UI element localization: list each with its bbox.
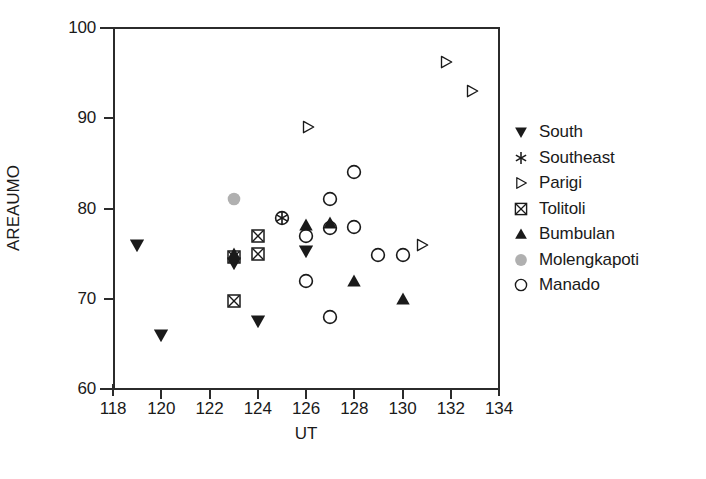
y-tick-80: [104, 208, 113, 210]
asterisk-icon: [512, 150, 530, 166]
data-point-parigi-0: [301, 120, 316, 135]
legend-item-molengkapoti: Molengkapoti: [512, 252, 639, 268]
x-tick-118: [112, 384, 114, 396]
x-tick-label-126: 126: [292, 399, 320, 419]
x-tick-label-130: 130: [389, 399, 417, 419]
y-tick-label-80: 80: [77, 199, 96, 219]
x-tick-label-128: 128: [340, 399, 368, 419]
data-point-parigi-1: [414, 237, 429, 252]
x-tick-label-124: 124: [244, 399, 272, 419]
x-tick-132: [450, 390, 452, 399]
legend: SouthSoutheastParigiTolitoliBumbulanMole…: [512, 124, 639, 293]
crossed-square-icon: [512, 201, 530, 217]
open-circle-icon: [512, 277, 530, 293]
data-point-south-4: [298, 242, 315, 259]
filled-down-triangle-icon: [512, 124, 530, 140]
data-point-manado-4: [322, 220, 338, 236]
legend-label: Molengkapoti: [539, 250, 639, 270]
x-tick-124: [257, 390, 259, 399]
legend-item-tolitoli: Tolitoli: [512, 201, 639, 217]
x-tick-126: [305, 390, 307, 399]
y-tick-60: [100, 388, 114, 390]
y-tick-label-70: 70: [77, 289, 96, 309]
data-point-tolitoli-3: [250, 246, 265, 261]
x-tick-130: [402, 390, 404, 399]
data-point-bumbulan-4: [395, 291, 411, 307]
y-tick-label-60: 60: [77, 379, 96, 399]
legend-item-manado: Manado: [512, 277, 639, 293]
legend-label: Bumbulan: [539, 224, 615, 244]
x-tick-label-132: 132: [437, 399, 465, 419]
legend-label: South: [539, 122, 583, 142]
data-point-manado-5: [322, 309, 338, 325]
data-point-manado-0: [274, 210, 290, 226]
x-axis-label: UT: [295, 424, 318, 444]
x-tick-label-118: 118: [100, 399, 127, 419]
x-tick-134: [498, 384, 500, 396]
data-point-manado-3: [322, 191, 338, 207]
data-point-manado-1: [298, 228, 314, 244]
y-tick-label-100: 100: [68, 18, 96, 38]
legend-item-southeast: Southeast: [512, 150, 639, 166]
x-tick-label-120: 120: [147, 399, 175, 419]
legend-label: Parigi: [539, 173, 582, 193]
axis-spine-top: [113, 27, 500, 29]
data-point-manado-8: [370, 247, 386, 263]
filled-up-triangle-icon: [512, 226, 530, 242]
data-point-south-3: [249, 313, 266, 330]
x-tick-128: [353, 390, 355, 399]
data-point-south-1: [153, 326, 170, 343]
axis-spine-right: [498, 27, 500, 390]
data-point-manado-9: [395, 247, 411, 263]
legend-label: Southeast: [539, 148, 615, 168]
y-tick-100: [100, 27, 114, 29]
x-tick-label-122: 122: [196, 399, 224, 419]
data-point-manado-2: [298, 273, 314, 289]
legend-label: Tolitoli: [539, 199, 585, 219]
y-tick-90: [104, 117, 113, 119]
legend-item-south: South: [512, 124, 639, 140]
data-point-parigi-3: [465, 84, 480, 99]
data-point-manado-7: [346, 219, 362, 235]
scatter-plot-figure: 118120122124126128130132134 60708090100 …: [0, 0, 706, 479]
data-point-tolitoli-2: [250, 228, 265, 243]
legend-item-bumbulan: Bumbulan: [512, 226, 639, 242]
filled-gray-circle-icon: [512, 252, 530, 268]
data-point-parigi-2: [438, 55, 453, 70]
data-point-south-0: [129, 236, 146, 253]
data-point-manado-6: [346, 164, 362, 180]
plot-area: [113, 27, 500, 390]
y-axis-label: AREAUMO: [4, 165, 24, 251]
y-tick-label-90: 90: [77, 108, 96, 128]
x-tick-label-134: 134: [485, 399, 513, 419]
legend-item-parigi: Parigi: [512, 175, 639, 191]
x-tick-122: [209, 390, 211, 399]
legend-label: Manado: [539, 275, 600, 295]
open-right-triangle-icon: [512, 175, 530, 191]
data-point-molengkapoti-0: [226, 192, 241, 207]
data-point-bumbulan-3: [346, 273, 362, 289]
data-point-bumbulan-0: [226, 246, 242, 262]
data-point-tolitoli-1: [226, 293, 241, 308]
y-tick-70: [104, 298, 113, 300]
x-tick-120: [160, 390, 162, 399]
